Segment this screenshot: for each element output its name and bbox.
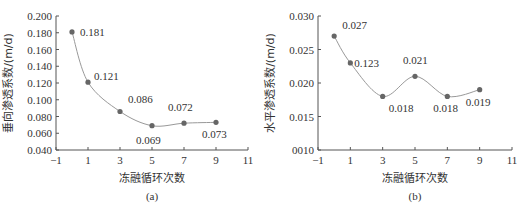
data-label: 0.072 <box>168 101 193 113</box>
y-tick-label: 0.200 <box>27 10 52 22</box>
y-tick-label: 0.030 <box>289 10 314 22</box>
data-label: 0.123 <box>354 57 379 69</box>
data-point-marker <box>85 80 90 85</box>
data-point-marker <box>213 120 218 125</box>
y-tick-label: 0.100 <box>27 94 52 106</box>
x-tick-label: 3 <box>380 154 386 166</box>
data-point-marker <box>445 94 450 99</box>
x-tick-label: 5 <box>412 154 418 166</box>
x-axis-title: 冻融循环次数 <box>119 171 185 185</box>
x-tick-label: −1 <box>312 154 324 166</box>
y-tick-label: 0.025 <box>289 44 314 56</box>
x-tick-label: 7 <box>445 154 451 166</box>
x-tick-label: 1 <box>85 154 91 166</box>
y-tick-label: 0.040 <box>27 144 52 156</box>
data-point-marker <box>332 34 337 39</box>
data-label: 0.086 <box>128 93 153 105</box>
data-point-marker <box>181 121 186 126</box>
data-label: 0.181 <box>80 26 105 38</box>
y-tick-label: 0.120 <box>27 77 52 89</box>
data-point-marker <box>477 87 482 92</box>
chart-b-horizontal-permeability: 0.0300.0250.0200.0150010−11357911冻融循环次数水… <box>263 10 517 203</box>
y-tick-label: 0010 <box>292 144 315 156</box>
panel-caption: (a) <box>146 190 159 203</box>
x-tick-label: 3 <box>117 154 123 166</box>
y-axis-title: 垂向渗透系数/(m/d) <box>1 33 15 133</box>
x-tick-label: 11 <box>507 154 518 166</box>
y-tick-label: 0.015 <box>289 111 314 123</box>
data-label: 0.027 <box>342 19 367 31</box>
figure: 0.2000.1800.1600.1400.1200.1000.0800.060… <box>0 0 527 203</box>
y-tick-label: 0.140 <box>27 60 52 72</box>
x-axis-title: 冻融循环次数 <box>382 171 448 185</box>
y-tick-label: 0.020 <box>289 77 314 89</box>
y-tick-label: 0.160 <box>27 44 52 56</box>
data-label: 0.018 <box>389 102 414 114</box>
panel-caption: (b) <box>409 190 422 203</box>
x-tick-label: 11 <box>243 154 254 166</box>
x-tick-label: 9 <box>477 154 483 166</box>
y-axis-title: 水平渗透系数/(m/d) <box>263 33 277 133</box>
data-label: 0.073 <box>202 128 227 140</box>
data-point-marker <box>348 60 353 65</box>
chart-a-vertical-permeability: 0.2000.1800.1600.1400.1200.1000.0800.060… <box>1 10 253 203</box>
data-point-marker <box>117 109 122 114</box>
data-point-marker <box>149 123 154 128</box>
x-tick-label: 7 <box>181 154 187 166</box>
x-tick-label: 5 <box>149 154 155 166</box>
x-tick-label: 9 <box>213 154 219 166</box>
data-label: 0.069 <box>136 134 161 146</box>
data-label: 0.121 <box>94 70 119 82</box>
data-label: 0.019 <box>466 96 491 108</box>
y-tick-label: 0.060 <box>27 127 52 139</box>
x-tick-label: 1 <box>348 154 354 166</box>
data-point-marker <box>412 74 417 79</box>
y-tick-label: 0.180 <box>27 27 52 39</box>
data-label: 0.018 <box>433 102 458 114</box>
x-tick-label: −1 <box>50 154 62 166</box>
data-label: 0.021 <box>403 54 428 66</box>
y-tick-label: 0.080 <box>27 111 52 123</box>
data-point-marker <box>69 29 74 34</box>
data-point-marker <box>380 94 385 99</box>
